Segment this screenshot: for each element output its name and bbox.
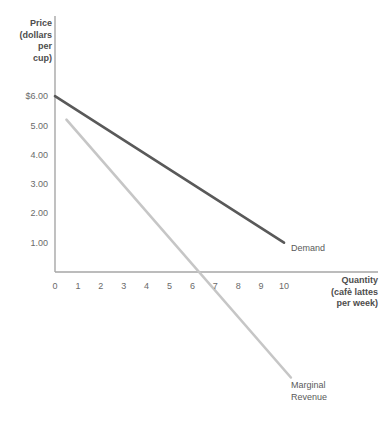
- chart-plot-area: [0, 0, 385, 429]
- x-axis-tick-label: 2: [93, 281, 109, 291]
- data-series-group: [55, 96, 291, 377]
- demand-curve: [55, 96, 284, 243]
- y-axis-tick-label: 5.00: [8, 121, 48, 131]
- x-axis-tick-label: 8: [230, 281, 246, 291]
- x-axis-tick-label: 1: [70, 281, 86, 291]
- x-axis-tick-label: 7: [207, 281, 223, 291]
- x-axis-tick-label: 9: [253, 281, 269, 291]
- x-axis-tick-label: 6: [184, 281, 200, 291]
- x-axis-tick-label: 5: [162, 281, 178, 291]
- y-axis-tick-label: 4.00: [8, 150, 48, 160]
- y-axis-tick-label: 3.00: [8, 179, 48, 189]
- y-axis-title: Price (dollars per cup): [0, 18, 52, 64]
- y-axis-tick-label: 1.00: [8, 238, 48, 248]
- x-axis-tick-label: 0: [47, 281, 63, 291]
- x-axis-tick-label: 4: [139, 281, 155, 291]
- chart-container: Price (dollars per cup) Quantity (cafè l…: [0, 0, 385, 429]
- marginal-revenue-curve: [66, 120, 290, 378]
- x-axis-tick-label: 3: [116, 281, 132, 291]
- marginal-revenue-series-label: Marginal Revenue: [291, 379, 327, 403]
- demand-series-label: Demand: [291, 243, 325, 255]
- y-axis-tick-label: $6.00: [8, 91, 48, 101]
- x-axis-tick-label: 10: [276, 281, 292, 291]
- y-axis-tick-label: 2.00: [8, 208, 48, 218]
- x-axis-title: Quantity (cafè lattes per week): [294, 275, 378, 310]
- axes: [55, 16, 378, 272]
